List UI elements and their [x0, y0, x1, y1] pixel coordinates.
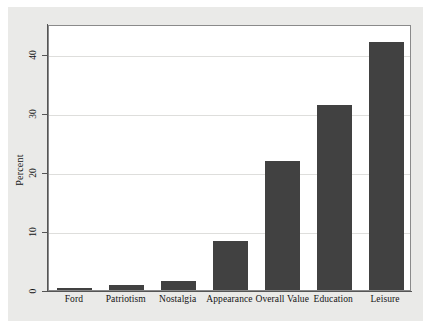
y-axis-tick-label-wrapper: 0	[26, 284, 40, 298]
y-axis-title: Percent	[14, 154, 25, 185]
y-axis-title-wrapper: Percent	[12, 140, 26, 200]
x-axis-label: Patriotism	[100, 294, 152, 304]
bar	[317, 105, 352, 290]
y-axis-tick-label: 10	[28, 227, 38, 237]
y-axis-tick-label-wrapper: 10	[26, 225, 40, 239]
x-axis-label: Overall Value	[255, 294, 307, 304]
y-axis-tick-label-wrapper: 40	[26, 48, 40, 62]
y-axis-tick	[42, 114, 48, 115]
y-axis-line	[47, 24, 48, 292]
y-axis-tick-label: 40	[28, 50, 38, 60]
y-axis-tick	[42, 55, 48, 56]
y-axis-tick-label: 30	[28, 109, 38, 119]
y-axis-tick-label: 20	[28, 168, 38, 178]
bar	[213, 241, 248, 290]
bar	[57, 288, 92, 290]
x-axis-line	[47, 291, 412, 292]
y-axis-tick	[42, 232, 48, 233]
x-axis-label: Education	[307, 294, 359, 304]
x-axis-label: Nostalgia	[152, 294, 204, 304]
y-axis-tick-label-wrapper: 30	[26, 107, 40, 121]
y-axis-tick	[42, 173, 48, 174]
x-axis-label: Leisure	[359, 294, 411, 304]
y-axis-tick-label-wrapper: 20	[26, 166, 40, 180]
bars-container	[49, 26, 410, 290]
bar	[369, 42, 404, 290]
y-axis-tick-label: 0	[28, 289, 38, 294]
bar	[265, 161, 300, 290]
x-axis-label: Ford	[48, 294, 100, 304]
chart-figure: 010203040 Percent FordPatriotismNostalgi…	[0, 0, 431, 329]
plot-area	[48, 25, 411, 291]
bar	[161, 281, 196, 290]
bar	[109, 285, 144, 290]
x-axis-label: Appearance	[204, 294, 256, 304]
